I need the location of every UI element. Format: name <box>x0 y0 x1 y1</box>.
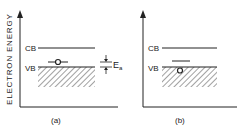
energy-label-a: Ea <box>113 60 123 71</box>
caption-a: (a) <box>51 116 61 125</box>
valence-band-fill-a <box>38 67 95 87</box>
vb-label-a: VB <box>25 64 36 73</box>
panel-b: CB VB (b) <box>140 10 237 125</box>
band-diagram: ELECTRON ENERGY CB VB Ea (a) CB VB (b) <box>0 0 240 132</box>
vb-label-b: VB <box>148 64 159 73</box>
y-axis-arrow-icon <box>17 10 23 18</box>
y-axis-label: ELECTRON ENERGY <box>5 13 14 105</box>
panel-a: ELECTRON ENERGY CB VB Ea (a) <box>5 10 123 125</box>
hole-icon-a <box>56 60 61 65</box>
cb-label-b: CB <box>148 44 159 53</box>
cb-label-a: CB <box>25 44 36 53</box>
hole-icon-b <box>178 68 183 73</box>
caption-b: (b) <box>175 116 185 125</box>
valence-band-fill-b <box>162 67 217 87</box>
y-axis-arrow-icon-b <box>140 10 146 18</box>
